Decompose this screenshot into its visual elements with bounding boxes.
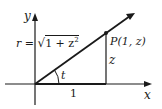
point-p-label: P(1, z)	[110, 36, 146, 47]
sqrt-symbol: √	[37, 36, 45, 50]
hypotenuse-label: r = √1 + z2	[16, 37, 79, 49]
radicand-text: 1 + z	[45, 37, 74, 50]
base-length-label: 1	[70, 88, 77, 99]
radicand-exponent: 2	[74, 36, 78, 44]
y-axis-arrowhead-icon	[32, 13, 38, 21]
angle-label: t	[61, 70, 65, 81]
hypotenuse-lhs: r =	[16, 37, 37, 50]
vertical-side-label: z	[109, 54, 115, 66]
hypotenuse-ray	[35, 16, 130, 84]
y-axis-label: y	[24, 10, 31, 22]
hypotenuse-radicand: 1 + z2	[45, 35, 78, 50]
angle-arc	[55, 70, 60, 84]
x-axis-arrowhead-icon	[144, 81, 152, 87]
x-axis-label: x	[144, 89, 151, 101]
point-p	[104, 31, 108, 35]
